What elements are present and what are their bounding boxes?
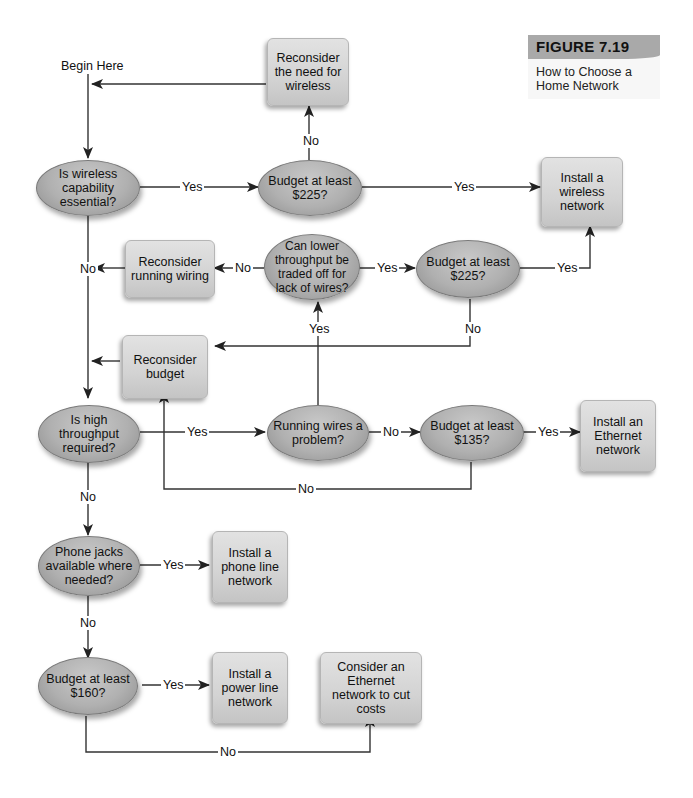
edge-label-budget160-yes: Yes	[161, 678, 185, 692]
node-budget-160[interactable]: Budget at least $160?	[38, 657, 138, 715]
edge-label-tradeoff-yes: Yes	[375, 261, 399, 275]
node-text: Budget at least $135?	[425, 419, 519, 447]
edge-label-throughput-yes: Yes	[185, 425, 209, 439]
start-label: Begin Here	[61, 59, 124, 73]
edge-label-budget225a-no: No	[301, 134, 321, 148]
edge-label-wires-no: No	[381, 425, 401, 439]
node-reconsider-budget[interactable]: Reconsider budget	[122, 335, 208, 399]
node-running-wires-problem[interactable]: Running wires a problem?	[267, 405, 369, 461]
edge-label-wireless-yes: Yes	[180, 180, 204, 194]
edge-label-budget135-yes: Yes	[536, 425, 560, 439]
edge-label-budget225b-no: No	[463, 322, 483, 336]
node-phone-jacks[interactable]: Phone jacks available where needed?	[38, 536, 140, 596]
node-install-ethernet[interactable]: Install an Ethernet network	[580, 400, 656, 472]
edge-label-budget160-no: No	[218, 745, 238, 759]
node-tradeoff-throughput[interactable]: Can lower throughput be traded off for l…	[264, 234, 360, 300]
node-text: Budget at least $160?	[43, 672, 133, 700]
edge-label-tradeoff-no: No	[233, 261, 253, 275]
node-text: Budget at least $225?	[263, 174, 357, 202]
node-text: Reconsider budget	[127, 353, 203, 381]
node-text: Reconsider the need for wireless	[272, 51, 344, 93]
node-high-throughput[interactable]: Is high throughput required?	[38, 405, 140, 463]
edge-label-budget225b-yes: Yes	[555, 261, 579, 275]
node-reconsider-need-wireless[interactable]: Reconsider the need for wireless	[267, 38, 349, 106]
edge-label-budget135-no: No	[296, 482, 316, 496]
figure-title: How to Choose a Home Network	[528, 59, 660, 93]
node-consider-ethernet[interactable]: Consider an Ethernet network to cut cost…	[320, 652, 422, 724]
node-text: Consider an Ethernet network to cut cost…	[325, 660, 417, 716]
edge-label-phone-yes: Yes	[161, 558, 185, 572]
node-install-power-line[interactable]: Install a power line network	[212, 652, 288, 724]
node-wireless-essential[interactable]: Is wireless capability essential?	[36, 160, 140, 216]
node-install-wireless[interactable]: Install a wireless network	[541, 157, 623, 227]
node-reconsider-running-wiring[interactable]: Reconsider running wiring	[125, 240, 215, 298]
node-text: Install a wireless network	[546, 171, 618, 213]
node-budget-225-b[interactable]: Budget at least $225?	[416, 240, 520, 298]
node-install-phone-line[interactable]: Install a phone line network	[212, 531, 288, 603]
node-text: Install an Ethernet network	[585, 415, 651, 457]
node-text: Can lower throughput be traded off for l…	[269, 239, 355, 295]
node-text: Running wires a problem?	[272, 419, 364, 447]
node-text: Is wireless capability essential?	[41, 167, 135, 209]
edge-label-wires-yes: Yes	[307, 322, 331, 336]
node-text: Budget at least $225?	[421, 255, 515, 283]
node-text: Install a power line network	[217, 667, 283, 709]
edge-label-wireless-no: No	[78, 262, 98, 276]
figure-label: FIGURE 7.19	[528, 35, 660, 59]
figure-caption: FIGURE 7.19 How to Choose a Home Network	[528, 35, 660, 99]
node-text: Install a phone line network	[217, 546, 283, 588]
node-text: Reconsider running wiring	[130, 255, 210, 283]
node-budget-135[interactable]: Budget at least $135?	[420, 405, 524, 461]
node-text: Is high throughput required?	[43, 413, 135, 455]
node-budget-225-a[interactable]: Budget at least $225?	[258, 160, 362, 216]
edge-label-throughput-no: No	[78, 490, 98, 504]
edge-label-phone-no: No	[78, 616, 98, 630]
node-text: Phone jacks available where needed?	[43, 545, 135, 587]
edge-label-budget225a-yes: Yes	[452, 180, 476, 194]
